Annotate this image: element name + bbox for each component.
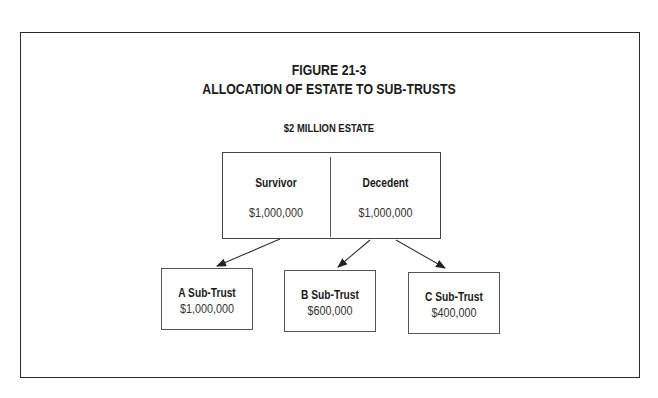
decedent-label: Decedent xyxy=(338,176,432,190)
decedent-share: Decedent $1,000,000 xyxy=(330,152,441,239)
decedent-amount: $1,000,000 xyxy=(336,206,436,220)
a-sub-trust-box: A Sub-Trust $1,000,000 xyxy=(161,268,253,330)
b-sub-trust-amount: $600,000 xyxy=(290,304,371,318)
c-sub-trust-label: C Sub-Trust xyxy=(416,290,493,304)
survivor-share: Survivor $1,000,000 xyxy=(222,152,330,239)
c-sub-trust-box: C Sub-Trust $400,000 xyxy=(408,272,500,334)
b-sub-trust-box: B Sub-Trust $600,000 xyxy=(284,270,376,332)
estate-label: $2 MILLION ESTATE xyxy=(59,122,599,134)
a-sub-trust-label: A Sub-Trust xyxy=(169,286,246,300)
survivor-label: Survivor xyxy=(230,176,322,190)
figure-title: ALLOCATION OF ESTATE TO SUB-TRUSTS xyxy=(59,80,599,97)
figure-number: FIGURE 21-3 xyxy=(59,61,599,78)
a-sub-trust-amount: $1,000,000 xyxy=(167,302,248,316)
survivor-amount: $1,000,000 xyxy=(227,206,324,220)
b-sub-trust-label: B Sub-Trust xyxy=(292,288,369,302)
c-sub-trust-amount: $400,000 xyxy=(414,306,495,320)
